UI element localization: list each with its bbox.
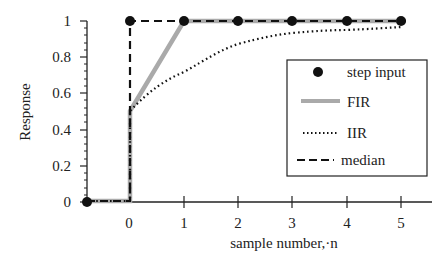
x-tick-label: 3 [288, 215, 296, 231]
y-axis-title: Response [17, 83, 33, 141]
x-tick-label: 4 [343, 215, 351, 231]
legend-label: IIR [347, 125, 367, 141]
x-tick-label: 1 [180, 215, 188, 231]
y-tick-label: 0 [64, 194, 72, 210]
y-tick-label: 0.8 [52, 49, 71, 65]
x-axis-title: sample number,·n [230, 235, 338, 251]
legend-label: step input [347, 64, 407, 80]
y-tick-label: 0.4 [52, 122, 71, 138]
x-axis: 0 1 2 3 4 5 sample number,·n [87, 196, 432, 251]
legend-label: median [341, 152, 386, 168]
y-tick-label: 1 [64, 13, 72, 29]
x-tick-label: 0 [125, 215, 133, 231]
y-tick-label: 0.6 [52, 85, 71, 101]
chart: 1 0.8 0.6 0.4 0.2 0 Response 0 1 2 3 4 5… [0, 0, 444, 266]
legend-label: FIR [347, 94, 370, 110]
x-tick-label: 2 [234, 215, 242, 231]
y-tick-label: 0.2 [52, 158, 71, 174]
y-axis: 1 0.8 0.6 0.4 0.2 0 Response [17, 13, 87, 210]
x-tick-label: 5 [397, 215, 405, 231]
legend: step input FIR IIR median [287, 60, 427, 176]
